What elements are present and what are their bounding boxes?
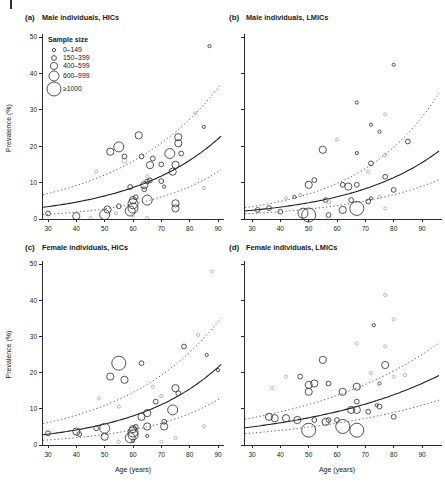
panel-b-chart: 30405060708090(b)Male individuals, LMICs bbox=[226, 4, 445, 236]
legend-item-label: 150–399 bbox=[63, 54, 90, 61]
legend-title: Sample size bbox=[48, 36, 88, 44]
panel-title: Female individuals, HICs bbox=[42, 243, 128, 252]
data-point bbox=[392, 375, 395, 378]
data-point bbox=[383, 174, 388, 179]
data-point bbox=[369, 197, 372, 200]
panel-label: (c) bbox=[25, 243, 35, 252]
data-point bbox=[322, 418, 329, 425]
x-tick-label: 30 bbox=[248, 225, 256, 232]
data-point bbox=[114, 212, 117, 215]
x-tick-label: 40 bbox=[73, 451, 81, 458]
data-point bbox=[298, 374, 303, 379]
data-point bbox=[353, 406, 360, 413]
data-point bbox=[172, 205, 179, 212]
data-point bbox=[197, 333, 200, 336]
data-point bbox=[293, 195, 296, 198]
data-point bbox=[319, 146, 326, 153]
data-point bbox=[354, 399, 359, 404]
data-point bbox=[345, 183, 352, 190]
data-point bbox=[366, 409, 371, 414]
ci-lower-curve bbox=[245, 180, 439, 214]
y-tick-label: 0 bbox=[33, 215, 37, 222]
data-point bbox=[367, 170, 370, 173]
x-tick-label: 30 bbox=[44, 451, 52, 458]
panel-title: Male individuals, HICs bbox=[42, 13, 119, 22]
data-point bbox=[298, 208, 308, 218]
y-tick-label: 20 bbox=[30, 369, 38, 376]
data-point bbox=[405, 139, 410, 144]
x-tick-label: 80 bbox=[390, 225, 398, 232]
y-tick-label: 30 bbox=[30, 333, 38, 340]
x-tick-label: 80 bbox=[390, 451, 398, 458]
ci-lower-curve bbox=[43, 170, 221, 215]
data-point bbox=[319, 356, 326, 363]
data-point bbox=[176, 391, 181, 396]
data-point bbox=[125, 433, 135, 443]
data-point bbox=[270, 387, 273, 390]
data-point bbox=[112, 356, 126, 370]
legend-item-label: ≥1000 bbox=[63, 85, 82, 92]
x-tick-label: 60 bbox=[333, 451, 341, 458]
data-point bbox=[326, 381, 331, 386]
x-tick-label: 90 bbox=[214, 225, 222, 232]
data-point bbox=[121, 376, 128, 383]
data-point bbox=[194, 112, 197, 115]
panel-a-chart: 0102030405030405060708090(a)Male individ… bbox=[2, 4, 228, 236]
panel-d-chart: 30405060708090(d)Female individuals, LMI… bbox=[226, 236, 445, 484]
panel-title: Male individuals, LMICs bbox=[246, 13, 328, 22]
legend-item-label: 400–599 bbox=[63, 62, 90, 69]
sample-size-legend: Sample size0–149150–399400–599600–999≥10… bbox=[47, 36, 90, 96]
x-tick-label: 90 bbox=[418, 225, 426, 232]
data-point bbox=[146, 175, 149, 178]
data-point bbox=[378, 195, 381, 198]
data-point bbox=[202, 187, 205, 190]
data-point bbox=[305, 181, 312, 188]
data-point bbox=[392, 63, 395, 66]
legend-item-label: 600–999 bbox=[63, 72, 90, 79]
data-point bbox=[384, 113, 387, 116]
data-point bbox=[378, 130, 381, 133]
data-point bbox=[403, 374, 406, 377]
y-tick-label: 50 bbox=[30, 260, 38, 267]
data-point bbox=[339, 206, 346, 213]
data-point bbox=[142, 187, 147, 192]
data-point bbox=[391, 414, 396, 419]
data-point bbox=[107, 373, 114, 380]
data-point bbox=[355, 152, 358, 155]
data-point bbox=[384, 345, 387, 348]
data-point bbox=[160, 395, 163, 398]
data-point bbox=[339, 388, 346, 395]
data-point bbox=[142, 195, 152, 205]
legend-bubble-icon bbox=[52, 56, 57, 61]
x-tick-label: 40 bbox=[277, 451, 285, 458]
y-tick-label: 40 bbox=[30, 297, 38, 304]
x-tick-label: 40 bbox=[73, 225, 81, 232]
data-point bbox=[163, 185, 166, 188]
data-point bbox=[382, 361, 389, 368]
data-point bbox=[312, 178, 317, 183]
data-point bbox=[128, 430, 138, 440]
data-point bbox=[172, 161, 179, 168]
data-point bbox=[392, 318, 395, 321]
data-point bbox=[369, 123, 372, 126]
data-point bbox=[372, 324, 375, 327]
fit-curve bbox=[43, 364, 221, 434]
data-point bbox=[139, 361, 144, 366]
data-point bbox=[135, 132, 142, 139]
x-tick-label: 50 bbox=[101, 225, 109, 232]
data-point bbox=[216, 369, 219, 372]
data-point bbox=[335, 138, 338, 141]
x-tick-label: 60 bbox=[129, 451, 137, 458]
legend-bubble-icon bbox=[52, 48, 55, 51]
y-tick-label: 50 bbox=[30, 33, 38, 40]
panel-title: Female individuals, LMICs bbox=[246, 243, 337, 252]
legend-item-label: 0–149 bbox=[63, 46, 82, 53]
data-point bbox=[302, 423, 316, 437]
data-point bbox=[350, 423, 364, 437]
data-point bbox=[349, 198, 354, 203]
data-point bbox=[284, 375, 287, 378]
data-point bbox=[128, 203, 138, 213]
x-axis-title: Age (years) bbox=[319, 466, 355, 474]
data-point bbox=[117, 405, 120, 408]
x-tick-label: 80 bbox=[186, 225, 194, 232]
